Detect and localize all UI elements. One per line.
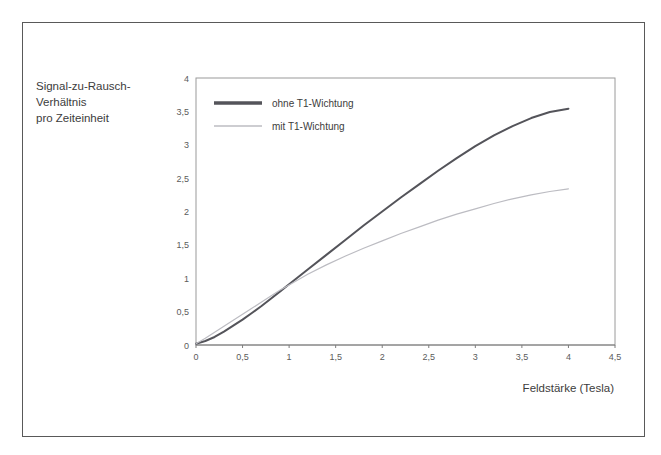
y-tick-label: 0: [184, 341, 189, 351]
y-tick-label: 3: [184, 140, 189, 150]
x-tick-label: 3: [473, 352, 478, 362]
y-tick-label: 2: [184, 207, 189, 217]
chart-canvas: 00,511,522,533,544,5 00,511,522,533,54 o…: [0, 0, 661, 455]
y-tick-label: 3,5: [176, 107, 189, 117]
x-tick-label: 1,5: [329, 352, 342, 362]
plot-area-frame: [196, 78, 615, 345]
chart-legend: ohne T1-Wichtungmit T1-Wichtung: [214, 98, 354, 132]
x-tick-label: 4: [566, 352, 571, 362]
x-tick-label: 1: [287, 352, 292, 362]
y-tick-label: 0,5: [176, 307, 189, 317]
x-tick-label: 0,5: [236, 352, 249, 362]
y-tick-label: 4: [184, 74, 189, 84]
y-axis-caption-line: Signal-zu-Rausch-: [36, 80, 131, 92]
plot-frame-rect: [196, 78, 615, 345]
x-tick-label: 0: [193, 352, 198, 362]
y-axis-caption-line: pro Zeiteinheit: [36, 112, 110, 124]
legend-label-mit-t1-wichtung: mit T1-Wichtung: [272, 121, 345, 132]
y-axis-caption: Signal-zu-Rausch-Verhältnispro Zeiteinhe…: [36, 80, 131, 124]
y-axis: 00,511,522,533,54: [176, 74, 189, 351]
x-tick-label: 2,5: [423, 352, 436, 362]
y-axis-caption-line: Verhältnis: [36, 96, 87, 108]
y-tick-label: 1: [184, 274, 189, 284]
x-axis: 00,511,522,533,544,5: [193, 345, 621, 362]
y-tick-label: 2,5: [176, 174, 189, 184]
legend-label-ohne-t1-wichtung: ohne T1-Wichtung: [272, 98, 354, 109]
series-lines: [196, 109, 568, 344]
x-tick-label: 3,5: [516, 352, 529, 362]
x-tick-label: 4,5: [609, 352, 622, 362]
x-axis-title: Feldstärke (Tesla): [523, 382, 615, 394]
y-tick-label: 1,5: [176, 240, 189, 250]
x-tick-label: 2: [380, 352, 385, 362]
